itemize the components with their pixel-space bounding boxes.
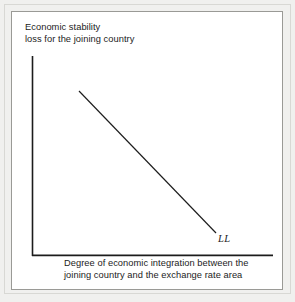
plot-area	[12, 12, 284, 291]
chart-panel: Economic stability loss for the joining …	[11, 11, 283, 290]
ll-curve	[79, 91, 216, 233]
figure-root: Economic stability loss for the joining …	[0, 0, 295, 302]
x-axis-caption: Degree of economic integration between t…	[64, 258, 279, 282]
ll-curve-label: LL	[218, 233, 230, 244]
